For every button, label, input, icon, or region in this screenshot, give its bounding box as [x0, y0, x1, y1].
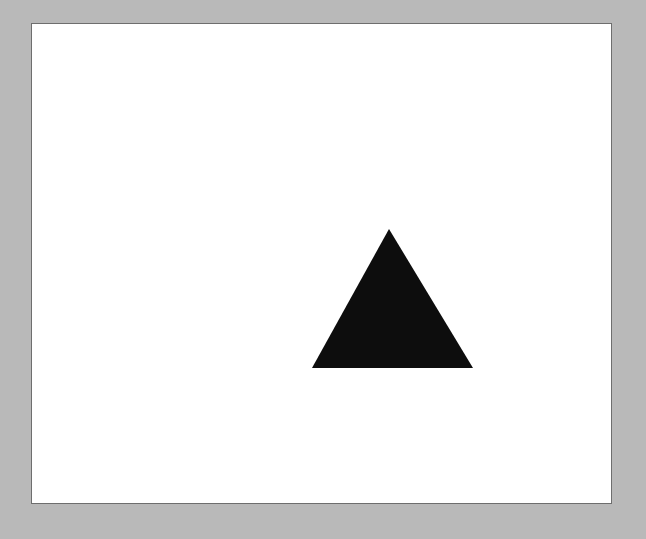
shape-layer: [0, 0, 646, 539]
black-triangle: [312, 229, 473, 368]
